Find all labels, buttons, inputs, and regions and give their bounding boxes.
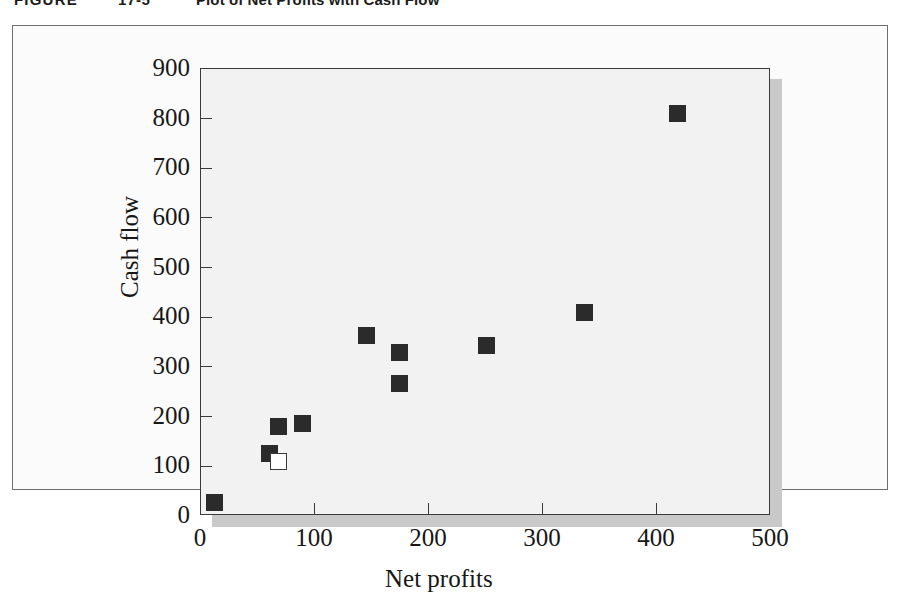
y-axis-title: Cash flow — [116, 196, 144, 298]
x-axis-title: Net profits — [385, 565, 493, 593]
x-axis-tick-label: 200 — [388, 525, 468, 550]
x-axis-tick-label: 100 — [274, 525, 354, 550]
x-axis-tick-label: 300 — [502, 525, 582, 550]
x-axis-tick-labels: 0100200300400500 — [0, 0, 903, 605]
x-axis-tick-label: 400 — [616, 525, 696, 550]
x-axis-tick-label: 500 — [730, 525, 810, 550]
x-axis-tick-label: 0 — [160, 525, 240, 550]
scatter-chart: 0100200300400500600700800900 01002003004… — [0, 0, 903, 605]
